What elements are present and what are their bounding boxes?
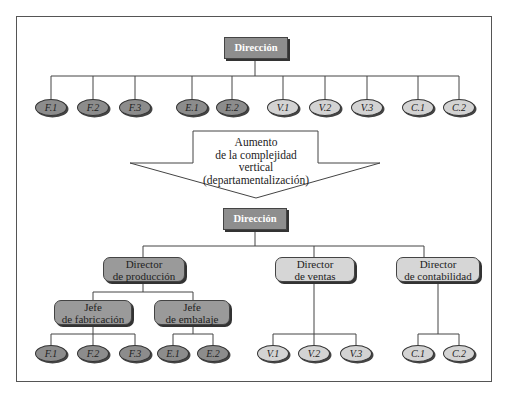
bottom-unit-e2: E.2 xyxy=(197,345,229,362)
arrow-caption-line: Aumento xyxy=(196,136,316,149)
arrow-caption-line: vertical xyxy=(196,161,316,174)
bottom-unit-v2: V.2 xyxy=(298,345,330,362)
unit-label: E.1 xyxy=(166,348,180,359)
bottom-unit-f2: F.2 xyxy=(77,345,109,362)
unit-label: V.2 xyxy=(308,348,320,359)
box-line: de contabilidad xyxy=(404,270,472,282)
top-root-box: Dirección xyxy=(224,37,288,59)
bottom-unit-f1: F.1 xyxy=(35,345,67,362)
director-produccion-box: Director de producción xyxy=(103,257,185,282)
unit-label: F.1 xyxy=(45,102,57,113)
top-unit-f2: F.2 xyxy=(77,99,109,116)
top-unit-e2: E.2 xyxy=(216,99,248,116)
unit-label: C.2 xyxy=(452,348,466,359)
unit-label: F.1 xyxy=(45,348,57,359)
top-unit-e1: E.1 xyxy=(176,99,208,116)
unit-label: V.3 xyxy=(350,348,362,359)
unit-label: C.1 xyxy=(411,102,425,113)
bottom-root-box: Dirección xyxy=(223,208,287,230)
unit-label: E.2 xyxy=(225,102,239,113)
bottom-unit-c2: C.2 xyxy=(443,345,475,362)
director-contabilidad-box: Director de contabilidad xyxy=(396,257,480,282)
box-line: Director xyxy=(126,258,163,270)
unit-label: C.1 xyxy=(411,348,425,359)
jefe-embalaje-box: Jefe de embalaje xyxy=(154,300,230,325)
top-unit-v3: V.3 xyxy=(351,99,383,116)
box-line: de ventas xyxy=(294,270,335,282)
bottom-unit-e1: E.1 xyxy=(157,345,189,362)
unit-label: C.2 xyxy=(452,102,466,113)
jefe-fabricacion-box: Jefe de fabricación xyxy=(54,300,132,325)
top-unit-f3: F.3 xyxy=(119,99,151,116)
bottom-unit-f3: F.3 xyxy=(119,345,151,362)
unit-label: E.2 xyxy=(206,348,220,359)
arrow-caption-line: (departamentalización) xyxy=(196,174,316,187)
arrow-caption: Aumento de la complejidad vertical (depa… xyxy=(196,136,316,186)
box-line: de embalaje xyxy=(166,313,219,325)
unit-label: V.2 xyxy=(319,102,331,113)
bottom-root-label: Dirección xyxy=(234,213,277,225)
unit-label: V.1 xyxy=(267,348,279,359)
director-ventas-box: Director de ventas xyxy=(275,257,355,282)
top-unit-v1: V.1 xyxy=(267,99,299,116)
unit-label: F.2 xyxy=(87,348,99,359)
org-chart-diagram: Dirección F.1 F.2 F.3 E.1 E.2 V.1 V.2 V.… xyxy=(0,0,509,400)
arrow-caption-line: de la complejidad xyxy=(196,149,316,162)
bottom-unit-c1: C.1 xyxy=(402,345,434,362)
box-line: Director xyxy=(297,258,334,270)
bottom-unit-v1: V.1 xyxy=(257,345,289,362)
unit-label: V.3 xyxy=(361,102,373,113)
box-line: Jefe xyxy=(84,301,102,313)
bottom-unit-v3: V.3 xyxy=(340,345,372,362)
top-unit-v2: V.2 xyxy=(309,99,341,116)
unit-label: F.3 xyxy=(129,102,141,113)
top-root-label: Dirección xyxy=(235,42,278,54)
top-unit-c2: C.2 xyxy=(443,99,475,116)
top-unit-f1: F.1 xyxy=(35,99,67,116)
box-line: de producción xyxy=(113,270,176,282)
unit-label: E.1 xyxy=(185,102,199,113)
box-line: de fabricación xyxy=(62,313,125,325)
box-line: Director xyxy=(420,258,457,270)
connector-lines xyxy=(0,0,509,400)
top-unit-c1: C.1 xyxy=(402,99,434,116)
unit-label: V.1 xyxy=(277,102,289,113)
unit-label: F.3 xyxy=(129,348,141,359)
unit-label: F.2 xyxy=(87,102,99,113)
box-line: Jefe xyxy=(183,301,201,313)
